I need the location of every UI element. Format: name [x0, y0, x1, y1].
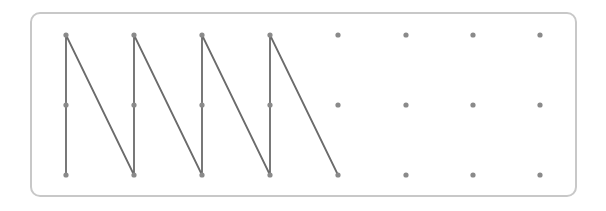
grid-dot	[267, 102, 272, 107]
grid-dot	[131, 172, 136, 177]
grid-dot	[537, 32, 542, 37]
grid-dot	[199, 32, 204, 37]
grid-dot	[335, 102, 340, 107]
grid-dot	[63, 172, 68, 177]
grid-dot	[403, 172, 408, 177]
grid-dot	[199, 102, 204, 107]
grid-dot	[537, 102, 542, 107]
dot-grid-diagram	[0, 0, 606, 211]
grid-dot	[403, 102, 408, 107]
grid-dot	[470, 32, 475, 37]
grid-dot	[335, 172, 340, 177]
grid-dot	[267, 172, 272, 177]
grid-dot	[267, 32, 272, 37]
grid-dot	[199, 172, 204, 177]
grid-dot	[470, 172, 475, 177]
grid-dot	[131, 32, 136, 37]
grid-dot	[403, 32, 408, 37]
grid-dot	[63, 32, 68, 37]
grid-dot	[63, 102, 68, 107]
grid-dot	[537, 172, 542, 177]
grid-dot	[335, 32, 340, 37]
grid-dot	[131, 102, 136, 107]
grid-dot	[470, 102, 475, 107]
